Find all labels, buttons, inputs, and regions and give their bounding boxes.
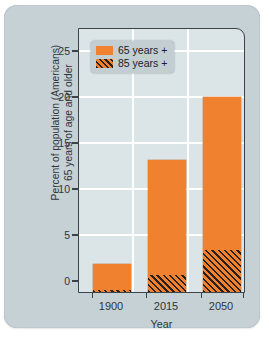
- legend-label-65plus: 65 years +: [118, 45, 167, 56]
- legend-item-65plus: 65 years +: [96, 44, 167, 57]
- x-tick-mark-mid2: [201, 292, 202, 298]
- y-tick-label-10: 10: [48, 184, 70, 195]
- x-axis-title: Year: [78, 318, 245, 330]
- x-tick-label-1900: 1900: [99, 300, 123, 312]
- y-tick-label-15: 15: [48, 138, 70, 149]
- bar-1900: [93, 264, 131, 292]
- chart-legend: 65 years + 85 years +: [91, 41, 174, 73]
- y-axis-title-line1: Percent of population (Americans): [50, 45, 61, 201]
- legend-item-85plus: 85 years +: [96, 57, 167, 70]
- y-axis-title-line2: 65 years of age and older: [63, 64, 74, 181]
- x-tick-label-2015: 2015: [154, 300, 178, 312]
- y-tick-label-5: 5: [48, 230, 70, 241]
- x-tick-mark-left: [92, 292, 93, 298]
- y-tick-label-25: 25: [48, 46, 70, 57]
- y-tick-label-20: 20: [48, 92, 70, 103]
- x-tick-mark-mid1: [146, 292, 147, 298]
- legend-swatch-65plus-icon: [96, 46, 113, 55]
- bar-1900-hatch-85plus: [93, 290, 131, 292]
- legend-swatch-85plus-icon: [96, 59, 113, 68]
- y-tick-label-0: 0: [48, 276, 70, 287]
- x-tick-label-2050: 2050: [209, 300, 233, 312]
- bar-2015-hatch-85plus: [148, 275, 186, 293]
- bar-2050: [203, 97, 241, 292]
- figure-panel: Percent of population (Americans) 65 yea…: [4, 5, 260, 328]
- legend-label-85plus: 85 years +: [118, 58, 167, 69]
- gridline-x-2: [187, 29, 189, 292]
- x-tick-mark-right: [243, 292, 244, 298]
- bar-2050-hatch-85plus: [203, 250, 241, 292]
- bar-2015: [148, 160, 186, 293]
